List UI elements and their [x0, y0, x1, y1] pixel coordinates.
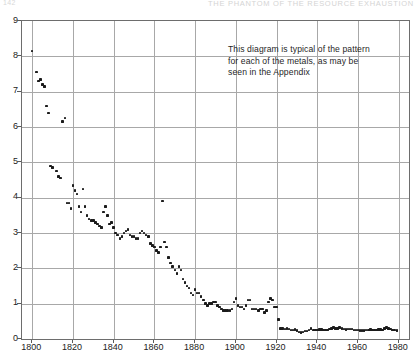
x-axis-tick-mark [153, 340, 154, 343]
data-point [182, 278, 185, 281]
page-running-head: 142 THE PHANTOM OF THE RESOURCE EXHAUSTI… [0, 0, 418, 13]
data-point [123, 232, 126, 235]
data-point [245, 304, 248, 307]
x-axis-tick-mark [194, 340, 195, 343]
data-point [39, 78, 42, 81]
y-axis-tick-label: 5 [2, 157, 18, 166]
data-point [31, 50, 34, 53]
y-axis-tick-mark [17, 91, 21, 92]
y-axis-tick-label: 0 [2, 334, 18, 343]
data-point [267, 301, 270, 304]
y-axis-tick-label: 7 [2, 86, 18, 95]
gridline-vertical [154, 21, 155, 339]
y-axis-tick-labels: 0123456789 [0, 20, 18, 340]
x-axis-tick-label: 1900 [225, 342, 245, 353]
data-point [70, 207, 73, 210]
data-point [116, 234, 119, 237]
y-axis-tick-label: 3 [2, 228, 18, 237]
y-axis-tick-label: 2 [2, 263, 18, 272]
x-axis-tick-mark [235, 340, 236, 343]
y-axis-tick-mark [17, 197, 21, 198]
x-axis-tick-label: 1820 [62, 342, 82, 353]
data-point [178, 265, 181, 268]
annotation-line-3: seen in the Appendix [228, 67, 404, 79]
data-point [106, 214, 109, 217]
data-point [86, 214, 89, 217]
data-point [235, 297, 238, 300]
data-point [194, 288, 197, 291]
data-point [233, 301, 236, 304]
data-point [184, 281, 187, 284]
y-axis-tick-label: 6 [2, 122, 18, 131]
x-axis-tick-mark [113, 340, 114, 343]
data-point [243, 308, 246, 311]
y-axis-tick-mark [17, 20, 21, 21]
data-point [265, 309, 268, 312]
data-point [163, 241, 166, 244]
data-point [277, 318, 280, 321]
gridline-horizontal [22, 198, 409, 199]
data-point [200, 295, 203, 298]
x-axis-tick-label: 1860 [143, 342, 163, 353]
data-point [169, 262, 172, 265]
data-point [68, 202, 71, 205]
gridline-horizontal [22, 162, 409, 163]
gridline-horizontal [22, 268, 409, 269]
data-point [100, 226, 103, 229]
data-point [161, 200, 164, 203]
data-point [192, 294, 195, 297]
data-point [35, 71, 38, 74]
x-axis-tick-label: 1960 [347, 342, 367, 353]
scatter-plot-figure: 142 THE PHANTOM OF THE RESOURCE EXHAUSTI… [0, 0, 418, 363]
running-head-left: 142 [3, 0, 16, 6]
gridline-horizontal [22, 92, 409, 93]
x-axis-tick-label: 1920 [266, 342, 286, 353]
data-point [59, 177, 62, 180]
data-point [137, 237, 140, 240]
data-point [78, 205, 81, 208]
data-point [80, 211, 83, 214]
data-point [72, 184, 75, 187]
annotation-line-1: This diagram is typical of the pattern [228, 44, 404, 56]
x-axis-tick-label: 1980 [388, 342, 408, 353]
data-point [271, 299, 274, 302]
annotation-line-2: for each of the metals, as may be [228, 56, 404, 68]
x-axis-tick-mark [276, 340, 277, 343]
data-point [171, 265, 174, 268]
x-axis-tick-mark [31, 340, 32, 343]
data-point [47, 112, 50, 115]
data-point [147, 235, 150, 238]
y-axis-tick-mark [17, 267, 21, 268]
data-point [167, 256, 170, 259]
data-point [82, 188, 85, 191]
gridline-horizontal [22, 127, 409, 128]
running-head-right: THE PHANTOM OF THE RESOURCE EXHAUSTION [208, 0, 414, 8]
data-point [102, 211, 105, 214]
data-point [153, 246, 156, 249]
data-point [51, 166, 54, 169]
y-axis-tick-mark [17, 338, 21, 339]
x-axis-tick-mark [398, 340, 399, 343]
x-axis-tick-label: 1840 [103, 342, 123, 353]
data-point [176, 272, 179, 275]
gridline-vertical [32, 21, 33, 339]
chart-annotation: This diagram is typical of the pattern f… [228, 44, 404, 79]
data-point [84, 205, 87, 208]
data-point [112, 226, 115, 229]
gridline-vertical [114, 21, 115, 339]
data-point [396, 329, 399, 332]
data-point [121, 235, 124, 238]
data-point [159, 246, 162, 249]
x-axis-tick-mark [316, 340, 317, 343]
data-point [198, 292, 201, 295]
x-axis-tick-label: 1940 [306, 342, 326, 353]
data-point [55, 170, 58, 173]
gridline-horizontal [22, 233, 409, 234]
data-point [214, 301, 217, 304]
data-point [249, 299, 252, 302]
data-point [104, 205, 107, 208]
gridline-vertical [73, 21, 74, 339]
x-axis-tick-label: 1800 [21, 342, 41, 353]
x-axis-tick-label: 1880 [184, 342, 204, 353]
data-point [74, 189, 77, 192]
